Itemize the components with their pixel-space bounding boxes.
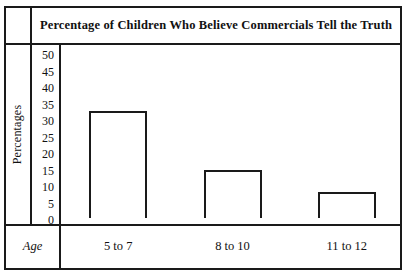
category-label: 11 to 12 xyxy=(327,239,368,254)
y-axis-tick-label: 10 xyxy=(42,181,54,193)
category-label: 5 to 7 xyxy=(104,239,132,254)
bar xyxy=(89,111,147,218)
y-axis-tick-label: 30 xyxy=(42,115,54,127)
y-axis-tick-label: 35 xyxy=(42,99,54,111)
bar xyxy=(318,192,376,218)
chart-figure: Percentage of Children Who Believe Comme… xyxy=(4,6,402,270)
y-axis-tick-label: 25 xyxy=(42,132,54,144)
y-axis-tick-column: 50454035302520151050 xyxy=(32,45,61,224)
y-axis-tick-label: 40 xyxy=(42,82,54,94)
title-row: Percentage of Children Who Believe Comme… xyxy=(6,8,400,45)
x-axis-label-cell: Age xyxy=(6,224,61,268)
plot-band: Percentages 50454035302520151050 xyxy=(6,45,400,226)
y-axis-label: Percentages xyxy=(11,105,26,165)
y-axis-label-cell: Percentages xyxy=(6,45,32,224)
chart-title: Percentage of Children Who Believe Comme… xyxy=(32,8,400,43)
title-row-gutter xyxy=(6,8,32,43)
y-axis-tick-label: 45 xyxy=(42,66,54,78)
y-axis-tick-label: 50 xyxy=(42,49,54,61)
x-axis-label: Age xyxy=(23,239,42,254)
plot-area xyxy=(61,45,400,224)
category-label: 8 to 10 xyxy=(215,239,250,254)
category-axis-row: Age 5 to 78 to 1011 to 12 xyxy=(6,224,400,268)
y-axis-tick-label: 15 xyxy=(42,165,54,177)
y-axis-tick-label: 20 xyxy=(42,148,54,160)
bar xyxy=(204,170,262,218)
y-axis-tick-label: 5 xyxy=(48,198,54,210)
category-label-cell: 5 to 78 to 1011 to 12 xyxy=(61,224,400,268)
